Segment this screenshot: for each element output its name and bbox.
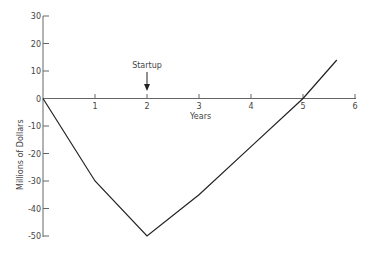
y-tick-label: -30	[28, 177, 41, 186]
y-tick-label: 0	[36, 95, 41, 104]
x-tick-label: 6	[352, 102, 357, 111]
arrowhead-icon	[144, 84, 150, 91]
startup-annotation: Startup	[132, 61, 162, 70]
y-ticks: 3020100-10-20-30-40-50	[28, 12, 49, 241]
y-tick-label: -10	[28, 122, 41, 131]
annotations: Startup	[132, 61, 162, 91]
x-tick-label: 5	[300, 102, 305, 111]
y-tick-label: -50	[28, 232, 41, 241]
x-tick-label: 2	[144, 102, 149, 111]
x-ticks: 123456	[92, 94, 357, 111]
y-axis-label: Millions of Dollars	[16, 119, 25, 190]
y-tick-label: 20	[31, 40, 41, 49]
x-tick-label: 4	[248, 102, 253, 111]
axes	[43, 16, 356, 237]
y-tick-label: 30	[31, 12, 41, 21]
x-axis-label: Years	[189, 112, 211, 121]
y-tick-label: -20	[28, 150, 41, 159]
x-tick-label: 3	[196, 102, 201, 111]
chart: 3020100-10-20-30-40-50 123456 Years Mill…	[0, 0, 368, 253]
x-tick-label: 1	[92, 102, 97, 111]
y-tick-label: 10	[31, 67, 41, 76]
data-line	[43, 60, 337, 236]
series-line	[43, 60, 337, 236]
y-tick-label: -40	[28, 205, 41, 214]
